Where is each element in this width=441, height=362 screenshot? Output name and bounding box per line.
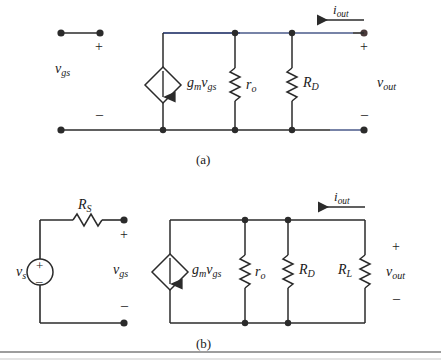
input-terminal-dot-top-b bbox=[120, 216, 127, 223]
output-minus-sign-b: – bbox=[393, 292, 400, 306]
output-terminal-dot-bottom-a bbox=[360, 126, 367, 133]
label-ro-b: ro bbox=[255, 265, 266, 279]
ro-node-bottom-a bbox=[232, 127, 238, 133]
input-terminal-dot-bottom-a bbox=[57, 126, 64, 133]
ro-node-bottom-b bbox=[242, 320, 248, 326]
resistor-ro-zigzag-a bbox=[230, 68, 240, 101]
resistor-rs-zigzag-b bbox=[73, 214, 102, 226]
input-plus-sign-a: + bbox=[95, 40, 103, 54]
input-minus-sign-b: – bbox=[121, 299, 128, 313]
part-label-b: (b) bbox=[196, 337, 211, 350]
source-plus-sign-b: + bbox=[36, 259, 43, 272]
output-minus-sign-a: – bbox=[361, 108, 368, 122]
output-plus-sign-b: + bbox=[392, 240, 400, 254]
figure-container: vgs + – gmvgs ro RD iout vout + – (a) vs… bbox=[0, 0, 441, 362]
label-vout-b: vout bbox=[386, 265, 405, 279]
label-rl-b: RL bbox=[338, 263, 352, 277]
resistor-ro-zigzag-b bbox=[240, 255, 250, 288]
label-rd-a: RD bbox=[303, 76, 319, 90]
rd-node-bottom-b bbox=[285, 320, 291, 326]
rd-node-bottom-a bbox=[289, 127, 295, 133]
output-plus-sign-a: + bbox=[360, 40, 368, 54]
source-minus-sign-b: – bbox=[36, 274, 43, 287]
resistor-rl-zigzag-b bbox=[360, 255, 370, 288]
resistor-rd-zigzag-a bbox=[287, 68, 297, 101]
part-label-a: (a) bbox=[196, 153, 210, 166]
label-vgs-b: vgs bbox=[113, 263, 128, 277]
label-vout-a: vout bbox=[377, 76, 396, 90]
input-minus-sign-a: – bbox=[96, 108, 103, 122]
label-rd-b: RD bbox=[299, 263, 315, 277]
label-iout-a: iout bbox=[333, 3, 349, 16]
input-terminal-dot-top-inner-a bbox=[96, 29, 103, 36]
input-plus-sign-b: + bbox=[120, 228, 128, 242]
input-terminal-dot-top-a bbox=[57, 29, 64, 36]
label-ro-a: ro bbox=[246, 78, 257, 92]
label-vs-b: vs bbox=[16, 265, 26, 279]
label-iout-b: iout bbox=[334, 190, 350, 203]
label-gmvgs-a: gmvgs bbox=[187, 76, 216, 90]
circuit-drawing-layer bbox=[0, 0, 441, 362]
label-gmvgs-b: gmvgs bbox=[192, 263, 221, 277]
input-terminal-dot-bottom-b bbox=[120, 319, 127, 326]
label-rs-b: RS bbox=[78, 198, 92, 212]
label-vgs-a: vgs bbox=[55, 62, 70, 76]
dep-source-node-bottom-a bbox=[160, 127, 166, 133]
resistor-rd-zigzag-b bbox=[283, 255, 293, 288]
